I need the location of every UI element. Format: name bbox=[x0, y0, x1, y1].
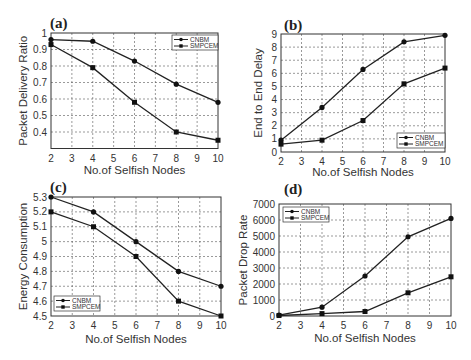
legend-entry-label: SMPCEM bbox=[190, 42, 219, 49]
legend: CNBMSMPCEM bbox=[283, 207, 330, 222]
square-marker-icon bbox=[176, 299, 181, 304]
y-tick-label: 0.9 bbox=[33, 44, 47, 55]
x-tick-label: 3 bbox=[69, 153, 75, 164]
circle-marker-icon bbox=[360, 67, 365, 72]
panel-label: (d) bbox=[284, 181, 302, 198]
square-marker-icon bbox=[320, 311, 325, 316]
circle-marker-icon bbox=[179, 38, 183, 42]
y-tick-label: 5000 bbox=[253, 231, 276, 242]
square-marker-icon bbox=[363, 309, 368, 314]
x-tick-label: 9 bbox=[427, 320, 433, 331]
circle-marker-icon bbox=[218, 284, 223, 289]
y-tick-label: 1 bbox=[271, 133, 277, 144]
y-tick-label: 0 bbox=[269, 311, 275, 322]
y-tick-label: 3000 bbox=[253, 263, 276, 274]
circle-marker-icon bbox=[401, 39, 406, 44]
x-tick-label: 10 bbox=[212, 153, 224, 164]
y-tick-label: 0.6 bbox=[33, 94, 47, 105]
square-marker-icon bbox=[49, 209, 54, 214]
legend: CNBMSMPCEM bbox=[54, 296, 101, 311]
y-tick-label: 0.4 bbox=[33, 127, 47, 138]
x-tick-label: 8 bbox=[173, 153, 179, 164]
x-tick-label: 10 bbox=[215, 320, 227, 331]
circle-marker-icon bbox=[319, 305, 324, 310]
panel-label: (a) bbox=[50, 15, 68, 32]
x-tick-label: 7 bbox=[154, 320, 160, 331]
y-tick-labels: 01000200030004000500060007000 bbox=[253, 199, 276, 322]
circle-marker-icon bbox=[290, 210, 294, 214]
x-tick-label: 9 bbox=[422, 156, 428, 167]
square-marker-icon bbox=[61, 305, 64, 308]
x-tick-label: 9 bbox=[194, 153, 200, 164]
y-tick-label: 2 bbox=[271, 120, 277, 131]
square-marker-icon bbox=[132, 100, 137, 105]
y-tick-label: 6000 bbox=[253, 215, 276, 226]
panel-label: (b) bbox=[284, 17, 302, 34]
legend-entry-label: SMPCEM bbox=[415, 140, 444, 147]
x-axis-title: No.of Selfish Nodes bbox=[312, 166, 414, 178]
y-tick-label: 1000 bbox=[253, 295, 276, 306]
y-tick-label: 6 bbox=[271, 68, 277, 79]
y-tick-label: 5 bbox=[41, 236, 47, 247]
circle-marker-icon bbox=[61, 299, 65, 303]
y-tick-label: 4.9 bbox=[33, 251, 47, 262]
x-tick-label: 7 bbox=[384, 320, 390, 331]
x-tick-labels: 2345678910 bbox=[48, 153, 224, 164]
legend-entry-label: SMPCEM bbox=[72, 303, 101, 310]
circle-marker-icon bbox=[132, 58, 137, 63]
square-marker-icon bbox=[277, 313, 282, 318]
square-marker-icon bbox=[404, 142, 407, 145]
square-marker-icon bbox=[320, 138, 325, 143]
y-axis-title: Energy Consumption bbox=[17, 203, 29, 310]
panel-label: (c) bbox=[50, 179, 67, 196]
legend: CNBMSMPCEM bbox=[397, 133, 445, 148]
x-tick-label: 4 bbox=[91, 320, 97, 331]
x-tick-label: 5 bbox=[111, 153, 117, 164]
y-tick-label: 3 bbox=[271, 107, 277, 118]
x-tick-label: 5 bbox=[112, 320, 118, 331]
circle-marker-icon bbox=[48, 194, 53, 199]
x-axis-title: No.of Selfish Nodes bbox=[84, 164, 186, 176]
x-tick-label: 3 bbox=[299, 156, 305, 167]
y-tick-label: 4.8 bbox=[33, 266, 47, 277]
y-axis-title: Packet Drop Rate bbox=[237, 215, 249, 306]
y-tick-label: 5.2 bbox=[33, 206, 47, 217]
circle-marker-icon bbox=[90, 39, 95, 44]
circle-marker-icon bbox=[176, 269, 181, 274]
chart-panel-a: 23456789100.40.50.60.70.80.91No.of Selfi… bbox=[17, 15, 224, 176]
x-axis-title: No.of Selfish Nodes bbox=[314, 332, 416, 344]
x-tick-label: 6 bbox=[133, 320, 139, 331]
legend: CNBMSMPCEM bbox=[172, 35, 219, 50]
y-tick-label: 0 bbox=[271, 147, 277, 158]
square-marker-icon bbox=[290, 216, 293, 219]
x-tick-labels: 2345678910 bbox=[48, 320, 227, 331]
x-tick-label: 6 bbox=[132, 153, 138, 164]
y-tick-label: 1 bbox=[41, 28, 47, 39]
y-tick-label: 7000 bbox=[253, 199, 276, 210]
x-tick-label: 3 bbox=[69, 320, 75, 331]
y-tick-label: 5.3 bbox=[33, 192, 47, 203]
square-marker-icon bbox=[134, 254, 139, 259]
y-tick-label: 0.5 bbox=[33, 110, 47, 121]
y-tick-label: 4000 bbox=[253, 247, 276, 258]
y-tick-label: 4.5 bbox=[33, 311, 47, 322]
legend-entry-label: SMPCEM bbox=[301, 214, 330, 221]
square-marker-icon bbox=[443, 66, 448, 71]
y-tick-label: 0.7 bbox=[33, 77, 47, 88]
circle-marker-icon bbox=[133, 239, 138, 244]
x-tick-label: 6 bbox=[362, 320, 368, 331]
y-tick-label: 8 bbox=[271, 42, 277, 53]
x-tick-label: 8 bbox=[176, 320, 182, 331]
circle-marker-icon bbox=[215, 100, 220, 105]
x-tick-label: 2 bbox=[276, 320, 282, 331]
y-axis-title: Packet Delivery Ratio bbox=[17, 36, 29, 146]
x-tick-label: 2 bbox=[48, 320, 54, 331]
x-tick-labels: 2345678910 bbox=[276, 320, 457, 331]
chart-panel-c: 23456789104.54.64.74.84.955.15.25.3No.of… bbox=[17, 179, 227, 345]
square-marker-icon bbox=[216, 138, 221, 143]
y-tick-label: 7 bbox=[271, 55, 277, 66]
y-tick-labels: 0123456789 bbox=[271, 29, 277, 158]
square-marker-icon bbox=[90, 65, 95, 70]
y-tick-labels: 0.40.50.60.70.80.91 bbox=[33, 28, 47, 138]
y-axis-title: End to End Delay bbox=[252, 48, 264, 138]
